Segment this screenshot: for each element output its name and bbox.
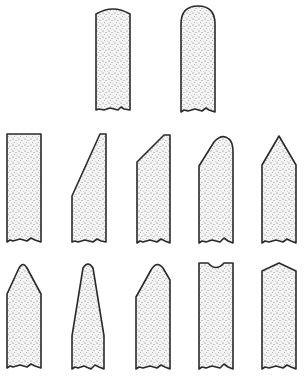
profile-double-bevel-rounded-tip [7,265,41,369]
profile-tapered-narrow-rounded-tip [72,264,104,369]
profile-full-round-top [181,6,215,112]
profile-offset-bevel-rounded-tip [136,264,170,369]
profile-pointed-double-bevel [262,136,296,243]
profile-bevel-rounded-top [199,137,233,243]
profile-square-flat [7,134,41,242]
profile-concave-top [199,263,233,369]
profile-45-bevel-left [137,135,170,243]
wheel-profiles-figure [0,0,304,381]
profile-shallow-double-bevel [262,263,296,369]
profile-steep-bevel-left [72,134,106,242]
profile-flat-top-slightly-rounded [96,9,130,110]
